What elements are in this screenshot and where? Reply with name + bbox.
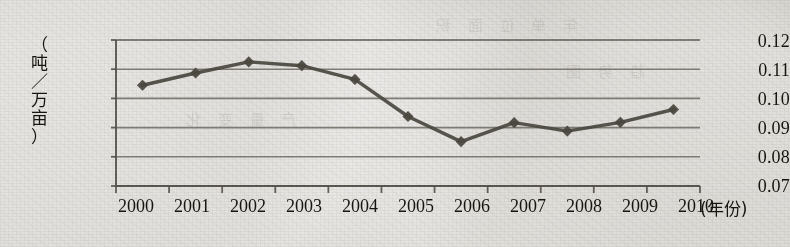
- data-marker-2006: [455, 136, 466, 147]
- line-chart-plot: [0, 0, 790, 247]
- data-marker-2010: [668, 104, 679, 115]
- data-marker-2009: [615, 117, 626, 128]
- data-marker-2007: [509, 117, 520, 128]
- data-line-series-0: [143, 62, 674, 142]
- data-marker-2000: [137, 80, 148, 91]
- x-axis-ticks-group: [116, 186, 700, 193]
- data-marker-2002: [243, 56, 254, 67]
